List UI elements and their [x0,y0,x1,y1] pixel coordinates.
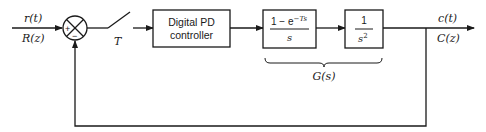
sampler-label: T [114,35,123,48]
plus-sign: + [65,24,70,34]
minus-sign: − [72,31,77,41]
gs-label: G(s) [312,70,335,83]
sampler-switch [108,12,130,28]
pd-label-line2: controller [170,29,214,41]
pd-label-line1: Digital PD [168,16,215,28]
input-z-label: R(z) [21,32,45,45]
output-time-label: c(t) [438,12,457,25]
gs-brace [265,58,382,67]
input-time-label: r(t) [24,12,42,25]
zoh-denominator: s [287,32,292,43]
block-diagram: r(t) R(z) + − T Digital PD controller 1 … [0,0,486,132]
output-z-label: C(z) [437,32,460,45]
plant-numerator: 1 [361,15,367,26]
